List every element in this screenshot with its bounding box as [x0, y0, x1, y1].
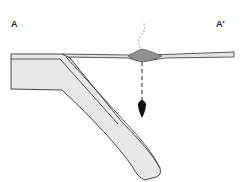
cross-section-diagram: A A' [0, 0, 251, 182]
magma-body [128, 49, 162, 62]
subducting-plate [11, 54, 161, 180]
diagram-graphic [0, 0, 251, 182]
arrow-head [138, 100, 146, 118]
smoke-plume [138, 22, 144, 48]
